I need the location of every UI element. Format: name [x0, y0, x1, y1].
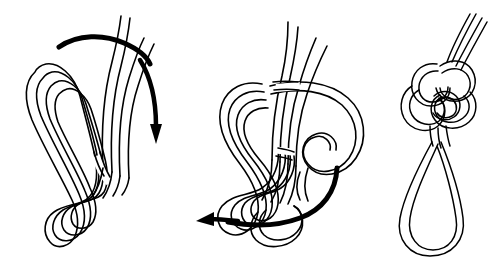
- diagram-canvas: [0, 0, 499, 266]
- knot-diagram-figure: [0, 0, 499, 266]
